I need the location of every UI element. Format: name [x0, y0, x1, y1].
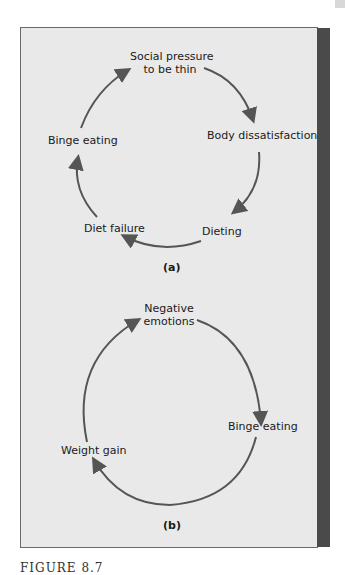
node-social-pressure: Social pressure to be thin: [130, 50, 210, 76]
node-body-dissatisfaction: Body dissatisfaction: [207, 129, 317, 142]
node-binge-eating-b: Binge eating: [228, 420, 298, 433]
node-negative-emotions: Negative emotions: [138, 302, 200, 328]
node-line: Social pressure: [130, 50, 210, 63]
caption-a: (a): [163, 261, 180, 274]
node-dieting: Dieting: [202, 225, 242, 238]
node-line: to be thin: [130, 63, 210, 76]
node-binge-eating-a: Binge eating: [48, 134, 118, 147]
node-diet-failure: Diet failure: [84, 222, 145, 235]
figure-label: FIGURE 8.7: [20, 561, 103, 575]
caption-b: (b): [163, 519, 181, 532]
node-line: Negative: [138, 302, 200, 315]
node-weight-gain: Weight gain: [61, 444, 127, 457]
node-line: emotions: [138, 315, 200, 328]
